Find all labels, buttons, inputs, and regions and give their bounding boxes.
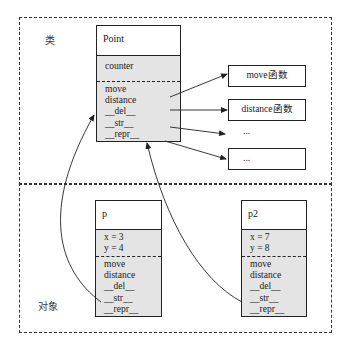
arrows-layer: [0, 0, 345, 348]
arrow-del-to-function: [170, 127, 225, 134]
arrow-move-to-function: [170, 74, 227, 97]
arrow-p-to-class: [61, 115, 101, 302]
arrow-repr-to-function: [165, 141, 226, 159]
arrow-p2-to-class: [147, 143, 242, 302]
